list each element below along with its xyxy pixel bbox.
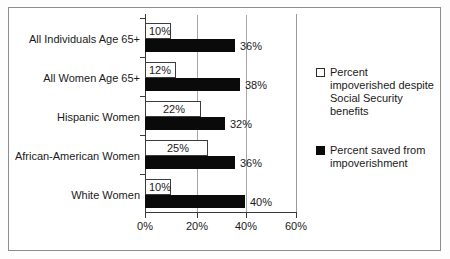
legend-label-impoverished: Percent impoverished despite Social Secu… xyxy=(330,66,434,118)
bar-value-impoverished-0: 10% xyxy=(149,26,171,37)
plot-border-right xyxy=(296,14,297,213)
xtick-mark-20 xyxy=(197,213,198,218)
bar-saved-3[interactable] xyxy=(145,156,235,169)
bar-value-impoverished-1: 12% xyxy=(149,65,171,76)
bar-saved-1[interactable] xyxy=(145,78,240,91)
bar-saved-4[interactable] xyxy=(145,195,245,208)
ytick-mark-2 xyxy=(140,96,145,97)
ytick-mark-0 xyxy=(140,18,145,19)
chart-legend: Percent impoverished despite Social Secu… xyxy=(316,66,434,196)
xtick-mark-0 xyxy=(145,213,146,218)
bar-value-saved-3: 36% xyxy=(240,158,262,169)
bar-value-saved-0: 36% xyxy=(240,41,262,52)
ytick-mark-1 xyxy=(140,57,145,58)
filled-square-icon xyxy=(316,146,325,155)
xtick-label-40: 40% xyxy=(226,220,266,232)
xtick-label-0: 0% xyxy=(125,220,165,232)
bar-value-impoverished-3: 25% xyxy=(167,143,189,154)
bar-value-saved-4: 40% xyxy=(250,197,272,208)
legend-entry-saved[interactable]: Percent saved from impoverishment xyxy=(316,144,434,170)
x-axis-line xyxy=(145,212,297,213)
ytick-mark-4 xyxy=(140,174,145,175)
category-label-4: White Women xyxy=(71,189,140,201)
chart-figure: 0% 20% 40% 60% All Individuals Age 65+ A… xyxy=(0,0,450,259)
category-label-2: Hispanic Women xyxy=(57,111,140,123)
bar-value-impoverished-4: 10% xyxy=(149,182,171,193)
category-label-1: All Women Age 65+ xyxy=(43,72,140,84)
bar-value-impoverished-2: 22% xyxy=(163,104,185,115)
xtick-label-20: 20% xyxy=(177,220,217,232)
plot-border-top xyxy=(145,14,297,15)
xtick-mark-60 xyxy=(296,213,297,218)
legend-label-saved: Percent saved from impoverishment xyxy=(330,144,434,170)
bar-saved-0[interactable] xyxy=(145,39,235,52)
open-square-icon xyxy=(316,68,325,77)
category-label-0: All Individuals Age 65+ xyxy=(29,33,140,45)
category-label-3: African-American Women xyxy=(15,150,140,162)
xtick-label-60: 60% xyxy=(276,220,316,232)
ytick-mark-3 xyxy=(140,135,145,136)
legend-entry-impoverished[interactable]: Percent impoverished despite Social Secu… xyxy=(316,66,434,118)
bar-saved-2[interactable] xyxy=(145,117,225,130)
bar-value-saved-2: 32% xyxy=(230,119,252,130)
xtick-mark-40 xyxy=(246,213,247,218)
bar-value-saved-1: 38% xyxy=(245,80,267,91)
